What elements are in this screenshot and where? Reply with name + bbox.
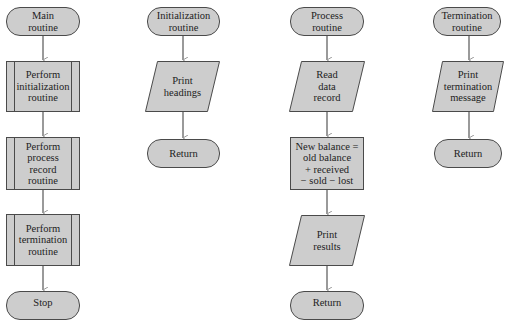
print-headings-label: Print headings <box>164 75 201 98</box>
new-balance-formula-label: New balance = old balance + received − s… <box>295 141 358 187</box>
predefined-bar-left <box>14 138 15 189</box>
read-data-record-io: Read data record <box>289 61 365 112</box>
return-label: Return <box>313 297 342 309</box>
predefined-bar-left <box>14 62 15 111</box>
predefined-bar-right <box>71 138 72 189</box>
print-results-label: Print results <box>313 229 340 252</box>
predefined-bar-left <box>14 215 15 265</box>
perform-initialization-label: Perform initialization routine <box>16 69 69 104</box>
print-headings-io: Print headings <box>145 61 220 112</box>
termination-routine-start-terminal: Termination routine <box>433 7 501 36</box>
return-label: Return <box>169 148 198 160</box>
perform-process-record-label: Perform process record routine <box>26 141 60 187</box>
return-label: Return <box>454 148 483 160</box>
predefined-bar-right <box>71 215 72 265</box>
perform-termination-box: Perform termination routine <box>6 214 80 266</box>
main-routine-start-terminal: Main routine <box>6 7 80 36</box>
main-routine-stop-terminal: Stop <box>6 291 80 320</box>
perform-initialization-box: Perform initialization routine <box>6 61 80 112</box>
process-return-terminal: Return <box>290 291 364 320</box>
process-routine-label: Process routine <box>311 10 343 33</box>
termination-routine-label: Termination routine <box>441 10 492 33</box>
main-routine-start-label: Main routine <box>28 10 58 33</box>
perform-termination-label: Perform termination routine <box>19 223 67 258</box>
print-termination-message-io: Print termination message <box>432 61 504 112</box>
stop-label: Stop <box>33 297 52 309</box>
new-balance-process-box: New balance = old balance + received − s… <box>290 137 364 190</box>
initialization-return-terminal: Return <box>147 139 220 168</box>
read-data-record-label: Read data record <box>314 69 341 104</box>
predefined-bar-right <box>71 62 72 111</box>
perform-process-record-box: Perform process record routine <box>6 137 80 190</box>
print-termination-message-label: Print termination message <box>444 69 492 104</box>
termination-return-terminal: Return <box>434 139 502 168</box>
initialization-routine-label: Initialization routine <box>157 10 211 33</box>
print-results-io: Print results <box>289 215 365 266</box>
process-routine-start-terminal: Process routine <box>290 7 364 36</box>
initialization-routine-start-terminal: Initialization routine <box>147 7 220 36</box>
